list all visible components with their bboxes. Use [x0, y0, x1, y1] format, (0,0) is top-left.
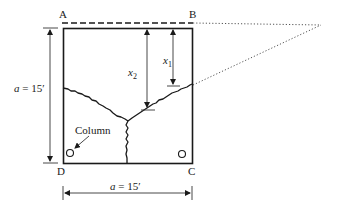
crack-line-right: [128, 84, 192, 121]
projection-dotted-line-bottom: [193, 25, 321, 85]
corner-label-a: A: [59, 8, 67, 20]
x1-sub: 1: [168, 60, 172, 69]
x2-sub: 2: [133, 72, 137, 81]
column-icon-bottom-right: [179, 151, 186, 158]
x1-label: x1: [162, 54, 172, 69]
crack-line-left: [63, 88, 128, 121]
crack-line-vertical: [126, 121, 128, 163]
dim-label-vertical: a = 15′: [14, 82, 45, 94]
dim-eq: = 15′: [20, 82, 45, 94]
dim-eq-h: = 15′: [116, 180, 141, 192]
column-label: Column: [75, 124, 111, 136]
projection-dotted-line-top: [193, 23, 321, 25]
dim-label-horizontal: a = 15′: [110, 180, 141, 192]
slab-yield-line-diagram: A B C D a = 15′ a = 15′ x2 x1 Column: [0, 0, 339, 212]
column-icon-bottom-left: [67, 150, 74, 157]
corner-label-d: D: [57, 165, 65, 177]
x2-label: x2: [127, 66, 137, 81]
column-leader-arrow: [75, 136, 89, 148]
corner-label-b: B: [189, 8, 196, 20]
corner-label-c: C: [188, 165, 195, 177]
